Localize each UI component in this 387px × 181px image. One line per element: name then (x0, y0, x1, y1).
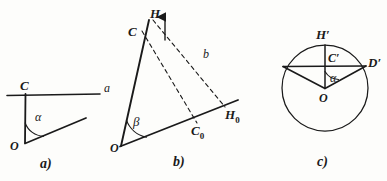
panel-a-caption: a) (40, 157, 52, 171)
panel-a-ray-a-line (7, 94, 100, 96)
panel-c-radius-o-left (283, 67, 325, 89)
panel-a-label-ray-a: a (104, 82, 110, 94)
panel-c-label-c-prime: C′ (328, 52, 339, 64)
panel-b-label-h0-subscript: 0 (235, 115, 240, 125)
panel-a-drawing (7, 94, 100, 144)
panel-a-segment-oc (25, 94, 26, 143)
panel-b-label-h0-base: H (225, 107, 235, 122)
panel-b-caption: b) (173, 155, 185, 169)
panel-b-label-origin-o: O (110, 142, 119, 154)
panel-b-label-c0-base: C (191, 123, 200, 138)
panel-c-label-d-prime: D′ (368, 56, 381, 69)
panel-a-label-c: C (20, 79, 29, 92)
panel-b-label-c: C (128, 25, 137, 38)
panel-a-label-angle-alpha: α (35, 111, 41, 123)
panel-c-drawing (282, 45, 368, 131)
panel-c-chord (283, 66, 366, 67)
figure-container: C a α O a) C H b H0 C0 β O b) H′ C′ D′ α… (0, 0, 387, 181)
panel-b-label-c0: C0 (191, 124, 204, 141)
panel-c-label-h-prime: H′ (316, 28, 330, 41)
panel-b-label-c0-subscript: 0 (200, 131, 205, 141)
panel-a-angle-arc (25, 123, 43, 136)
panel-c-caption: c) (317, 155, 328, 169)
panel-b-label-h0: H0 (225, 108, 240, 125)
panel-b-label-length-b: b (203, 48, 209, 60)
panel-c-label-angle-alpha: α (330, 72, 336, 84)
panel-b-label-h: H (150, 7, 160, 20)
panel-b-label-angle-beta: β (133, 115, 139, 128)
panel-c-label-center-o: O (319, 92, 328, 104)
panel-b-dashed-c-c0 (142, 31, 197, 123)
panel-a-label-origin-o: O (10, 140, 19, 152)
panel-b-dashed-h-h0 (153, 20, 225, 107)
